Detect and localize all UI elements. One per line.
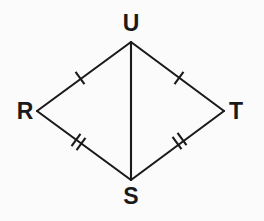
vertex-label-t: T — [229, 98, 243, 124]
tick-ut-1-mark — [175, 72, 184, 84]
segment-ut — [131, 42, 224, 111]
tick-marks-group — [72, 72, 187, 150]
segment-rs — [37, 111, 131, 180]
vertex-label-s: S — [123, 183, 138, 209]
segments-group — [37, 42, 224, 180]
tick-rs-1-mark — [72, 134, 81, 146]
geometry-canvas: URTS — [0, 0, 264, 221]
vertex-label-u: U — [123, 10, 140, 36]
vertex-label-r: R — [17, 98, 34, 124]
segment-st — [131, 111, 224, 180]
segment-ru — [37, 42, 131, 111]
geometry-figure: URTS — [0, 0, 264, 221]
